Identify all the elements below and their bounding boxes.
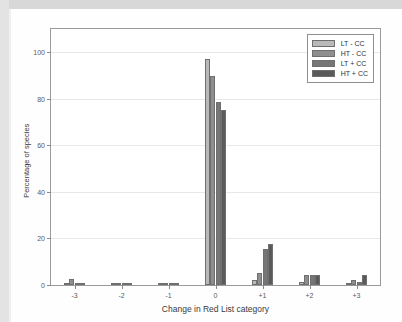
legend-item-label: HT + CC xyxy=(341,70,368,77)
x-tick-mark xyxy=(310,285,311,289)
y-tick-mark xyxy=(47,285,51,286)
x-tick-mark xyxy=(263,285,264,289)
x-tick-label: -1 xyxy=(165,292,171,299)
y-tick-mark xyxy=(47,99,51,100)
y-tick-mark xyxy=(47,52,51,53)
bar xyxy=(315,275,320,285)
legend-item-label: LT - CC xyxy=(341,40,365,47)
bar xyxy=(268,244,273,285)
page-edge-top xyxy=(0,0,402,9)
y-tick-mark xyxy=(47,192,51,193)
legend-item: LT + CC xyxy=(312,59,368,68)
x-tick-mark xyxy=(357,285,358,289)
bar xyxy=(80,283,85,285)
x-tick-mark xyxy=(216,285,217,289)
legend-item: HT + CC xyxy=(312,69,368,78)
legend-swatch-icon xyxy=(312,60,335,67)
x-tick-mark xyxy=(122,285,123,289)
legend-item-label: LT + CC xyxy=(341,60,367,67)
x-tick-label: -3 xyxy=(71,292,77,299)
bar xyxy=(221,110,226,285)
y-axis-title: Percentage of species xyxy=(23,101,31,221)
x-tick-mark xyxy=(169,285,170,289)
x-tick-label: +2 xyxy=(306,292,314,299)
x-tick-label: -2 xyxy=(118,292,124,299)
y-gridline xyxy=(51,99,380,100)
page-edge-left xyxy=(0,0,9,322)
legend-swatch-icon xyxy=(312,70,335,77)
legend-swatch-icon xyxy=(312,40,335,47)
bar xyxy=(362,275,367,285)
bar xyxy=(174,283,179,285)
x-tick-mark xyxy=(75,285,76,289)
legend-item: HT - CC xyxy=(312,49,368,58)
y-tick-label: 80 xyxy=(37,95,45,102)
legend-swatch-icon xyxy=(312,50,335,57)
plot-frame: 020406080100-3-2-10+1+2+3 LT - CCHT - CC… xyxy=(50,28,381,286)
y-tick-label: 100 xyxy=(33,49,45,56)
y-tick-label: 0 xyxy=(41,282,45,289)
legend-item-label: HT - CC xyxy=(341,50,367,57)
x-tick-label: +1 xyxy=(259,292,267,299)
x-tick-label: +3 xyxy=(353,292,361,299)
x-axis-title: Change in Red List category xyxy=(50,305,381,314)
y-tick-mark xyxy=(47,145,51,146)
figure-frame: 020406080100-3-2-10+1+2+3 LT - CCHT - CC… xyxy=(0,0,402,322)
x-tick-label: 0 xyxy=(214,292,218,299)
y-tick-label: 60 xyxy=(37,142,45,149)
y-tick-label: 20 xyxy=(37,235,45,242)
bar-chart: 020406080100-3-2-10+1+2+3 LT - CCHT - CC… xyxy=(11,9,402,322)
y-tick-label: 40 xyxy=(37,188,45,195)
bar xyxy=(127,283,132,285)
y-tick-mark xyxy=(47,238,51,239)
chart-legend: LT - CCHT - CCLT + CCHT + CC xyxy=(307,34,374,83)
legend-item: LT - CC xyxy=(312,39,368,48)
